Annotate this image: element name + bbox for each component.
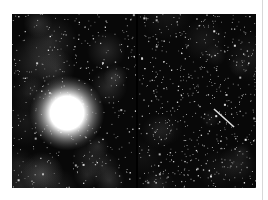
starfield-image-left [12, 14, 136, 188]
page-edge-line [262, 0, 263, 200]
right-image-panel [138, 14, 256, 188]
astronomy-figure [12, 14, 256, 188]
starfield-image-right [138, 14, 256, 188]
left-image-panel [12, 14, 136, 188]
